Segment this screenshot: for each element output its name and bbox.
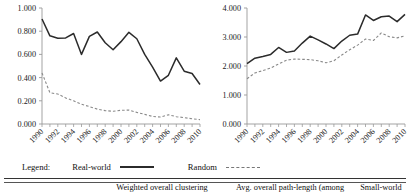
table-header-cell-small-world: Small-world (352, 183, 410, 193)
svg-text:2010: 2010 (185, 127, 203, 145)
table-header-cell-spacer (0, 183, 96, 193)
legend-swatch-solid-line (120, 166, 154, 168)
table-header-row: Weighted overall clustering Avg. overall… (0, 183, 410, 193)
svg-text:2008: 2008 (170, 127, 188, 145)
chart-legend: Legend: Real-world Random (0, 160, 410, 178)
svg-text:1990: 1990 (27, 127, 45, 145)
svg-text:1.000: 1.000 (223, 91, 241, 100)
svg-text:1990: 1990 (232, 127, 250, 145)
svg-text:1992: 1992 (248, 127, 266, 145)
chart-left-series-real-world (42, 19, 200, 85)
svg-text:2006: 2006 (154, 127, 172, 145)
chart-left-svg: 0.0000.2000.4000.6000.8001.000 199019921… (0, 0, 205, 160)
svg-text:3.000: 3.000 (223, 33, 241, 42)
chart-avg-overall-path-length: 0.0001.0002.0003.0004.000 19901992199419… (205, 0, 410, 160)
svg-text:2004: 2004 (138, 127, 156, 145)
svg-text:1998: 1998 (91, 127, 109, 145)
svg-text:1996: 1996 (75, 127, 93, 145)
chart-right-series-random (247, 33, 405, 79)
chart-right-ytick-labels: 0.0001.0002.0003.0004.000 (223, 4, 241, 129)
svg-text:1996: 1996 (280, 127, 298, 145)
legend-item-real-world: Real-world (72, 162, 154, 172)
svg-text:2010: 2010 (390, 127, 408, 145)
svg-text:2.000: 2.000 (223, 62, 241, 71)
svg-text:0.400: 0.400 (18, 74, 36, 83)
chart-left-xtick-marks (42, 124, 200, 127)
chart-right-xtick-marks (247, 124, 405, 127)
svg-text:1998: 1998 (296, 127, 314, 145)
svg-text:1994: 1994 (264, 127, 282, 145)
chart-left-series-random (42, 73, 200, 120)
svg-text:1992: 1992 (43, 127, 61, 145)
svg-text:1994: 1994 (59, 127, 77, 145)
svg-text:0.200: 0.200 (18, 97, 36, 106)
svg-text:0.000: 0.000 (18, 120, 36, 129)
legend-label-random: Random (188, 162, 217, 172)
legend-label-real-world: Real-world (72, 162, 111, 172)
svg-text:4.000: 4.000 (223, 4, 241, 13)
svg-text:2008: 2008 (375, 127, 393, 145)
legend-title: Legend: (22, 162, 50, 172)
legend-swatch-dashed-line (226, 167, 260, 168)
table-header-cell-clustering: Weighted overall clustering (96, 183, 228, 193)
svg-text:2000: 2000 (106, 127, 124, 145)
table-header-cell-path-length: Avg. overall path-length (among (228, 183, 352, 193)
chart-right-xtick-labels: 1990199219941996199820002002200420062008… (232, 127, 408, 145)
svg-text:0.000: 0.000 (223, 120, 241, 129)
svg-text:2002: 2002 (122, 127, 140, 145)
svg-text:0.600: 0.600 (18, 50, 36, 59)
chart-left-xtick-labels: 1990199219941996199820002002200420062008… (27, 127, 203, 145)
svg-text:1.000: 1.000 (18, 4, 36, 13)
svg-text:0.800: 0.800 (18, 27, 36, 36)
table-rule-top (4, 178, 406, 179)
svg-text:2004: 2004 (343, 127, 361, 145)
chart-weighted-overall-clustering: 0.0000.2000.4000.6000.8001.000 199019921… (0, 0, 205, 160)
chart-left-ytick-labels: 0.0000.2000.4000.6000.8001.000 (18, 4, 36, 129)
legend-item-random: Random (188, 162, 260, 172)
chart-right-svg: 0.0001.0002.0003.0004.000 19901992199419… (205, 0, 410, 160)
figure-charts: 0.0000.2000.4000.6000.8001.000 199019921… (0, 0, 410, 160)
svg-text:2006: 2006 (359, 127, 377, 145)
table-header-area: Weighted overall clustering Avg. overall… (0, 178, 410, 196)
svg-text:2002: 2002 (327, 127, 345, 145)
svg-text:2000: 2000 (311, 127, 329, 145)
chart-right-series-real-world (247, 14, 405, 63)
